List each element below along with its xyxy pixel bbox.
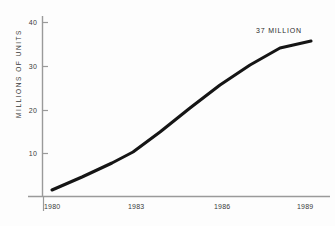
line-chart: MILLIONS OF UNITS 40 30 20 10 1980 1983 …: [0, 0, 335, 226]
data-series-line: [52, 41, 311, 190]
plot-area: [0, 0, 335, 226]
